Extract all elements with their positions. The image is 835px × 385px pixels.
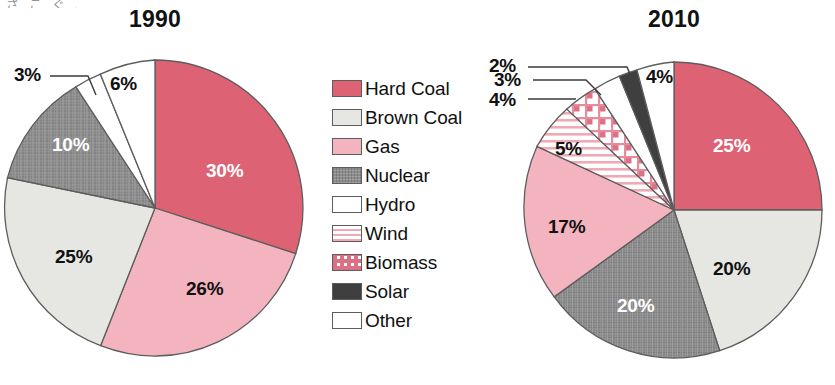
pie-2010-label-other: 4% bbox=[646, 66, 673, 88]
legend-label-biomass: Biomass bbox=[365, 253, 437, 272]
pie-1990-label-hydro: 3% bbox=[14, 64, 41, 86]
pie-1990-label-hard-coal: 30% bbox=[206, 160, 243, 182]
legend-item-hard-coal[interactable]: Hard Coal bbox=[332, 74, 482, 103]
pie-1990-label-other: 6% bbox=[110, 73, 137, 95]
legend-item-wind[interactable]: Wind bbox=[332, 219, 482, 248]
legend-label-hydro: Hydro bbox=[365, 195, 415, 214]
legend-swatch-other bbox=[332, 312, 362, 329]
pie-2010-label-brown-coal: 20% bbox=[713, 258, 750, 280]
legend: Hard Coal Brown Coal Gas Nuclear Hydro W… bbox=[332, 74, 482, 335]
legend-swatch-biomass bbox=[332, 254, 362, 271]
pie-2010-label-solar: 2% bbox=[489, 55, 516, 77]
legend-swatch-gas bbox=[332, 138, 362, 155]
pie-2010-label-wind: 5% bbox=[555, 138, 582, 160]
legend-label-other: Other bbox=[365, 311, 412, 330]
pie-2010-callout-line-solar bbox=[528, 67, 630, 74]
legend-label-nuclear: Nuclear bbox=[365, 166, 430, 185]
pie-1990 bbox=[5, 60, 303, 356]
legend-item-other[interactable]: Other bbox=[332, 306, 482, 335]
legend-item-biomass[interactable]: Biomass bbox=[332, 248, 482, 277]
legend-item-nuclear[interactable]: Nuclear bbox=[332, 161, 482, 190]
legend-item-brown-coal[interactable]: Brown Coal bbox=[332, 103, 482, 132]
pie-1990-label-nuclear: 10% bbox=[52, 134, 89, 156]
energy-mix-pie-figure: ざ こ ぐ 。 1990 2010 bbox=[0, 0, 835, 385]
pie-1990-label-brown-coal: 25% bbox=[55, 246, 92, 268]
legend-swatch-brown-coal bbox=[332, 109, 362, 126]
legend-label-solar: Solar bbox=[365, 282, 409, 301]
legend-swatch-nuclear bbox=[332, 167, 362, 184]
legend-swatch-solar bbox=[332, 283, 362, 300]
legend-label-hard-coal: Hard Coal bbox=[365, 79, 450, 98]
legend-label-gas: Gas bbox=[365, 137, 400, 156]
legend-item-gas[interactable]: Gas bbox=[332, 132, 482, 161]
pie-2010-label-gas: 17% bbox=[548, 216, 585, 238]
pie-2010-label-nuclear: 20% bbox=[617, 295, 654, 317]
legend-swatch-wind bbox=[332, 225, 362, 242]
legend-item-solar[interactable]: Solar bbox=[332, 277, 482, 306]
legend-label-wind: Wind bbox=[365, 224, 408, 243]
pie-2010-label-biomass: 4% bbox=[489, 89, 516, 111]
pie-2010 bbox=[524, 62, 822, 358]
legend-swatch-hydro bbox=[332, 196, 362, 213]
legend-item-hydro[interactable]: Hydro bbox=[332, 190, 482, 219]
legend-swatch-hard-coal bbox=[332, 80, 362, 97]
legend-label-brown-coal: Brown Coal bbox=[365, 108, 462, 127]
pie-2010-label-hard-coal: 25% bbox=[713, 135, 750, 157]
pie-1990-label-gas: 26% bbox=[186, 278, 223, 300]
